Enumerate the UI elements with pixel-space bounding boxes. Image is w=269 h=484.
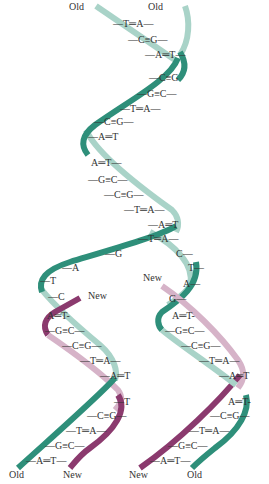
base-pair: —G≡C— (168, 441, 208, 451)
base-pair: —C≡G— (104, 190, 144, 200)
base-pair: —C≡G— (87, 411, 127, 421)
base-pair: —T═A— (189, 426, 229, 436)
label-bottom-new-2: New (129, 470, 148, 480)
unpaired-base: A— (183, 279, 200, 289)
base-pair: A═T— (91, 158, 121, 168)
label-bottom-old-2: Old (187, 470, 202, 480)
base-pair: —C≡G— (94, 117, 134, 127)
unpaired-base: —T (40, 276, 56, 286)
base-pair: —A═T (88, 132, 118, 142)
base-pair: —A═T (100, 371, 130, 381)
base-pair: —T═A— (199, 356, 239, 366)
base-pair: A═T- (47, 311, 70, 321)
base-pair: —T═A— (124, 205, 164, 215)
base-pair: —A═T— (145, 50, 185, 60)
base-pair: —T═A— (138, 234, 178, 244)
dna-replication-diagram: Old Old New New Old New New Old —T═A——C≡… (0, 0, 269, 484)
base-pair: —C≡G— (128, 35, 168, 45)
base-pair: A═T- (228, 397, 251, 407)
base-pair: —A═T— (150, 456, 190, 466)
base-pair: —C≡G— (181, 341, 221, 351)
base-pair: —C≡G— (62, 341, 102, 351)
base-pair: —G≡C— (137, 89, 177, 99)
base-pair: —C≡G— (210, 411, 250, 421)
base-pair: —T═A— (80, 356, 120, 366)
label-left-fork-new: New (88, 291, 107, 301)
label-right-fork-new: New (143, 273, 162, 283)
base-pair: —A═T— (26, 456, 66, 466)
unpaired-base: —G (105, 249, 122, 259)
label-top-left-old: Old (69, 2, 84, 12)
base-pair: —A═T (148, 220, 178, 230)
old-strand-back-3 (180, 6, 188, 55)
base-pair: —T (114, 397, 130, 407)
unpaired-base: —C (48, 292, 65, 302)
base-pair: —G≡C— (45, 326, 85, 336)
unpaired-base: —A (62, 263, 79, 273)
label-top-right-old: Old (148, 2, 163, 12)
unpaired-base: G— (169, 294, 186, 304)
label-bottom-new-1: New (63, 470, 82, 480)
base-pair: —C≡G (149, 73, 179, 83)
unpaired-base: C— (176, 249, 193, 259)
base-pair: —G≡C— (45, 441, 85, 451)
unpaired-base: T— (188, 263, 204, 273)
base-pair: —A═T (219, 371, 249, 381)
base-pair: —T═A— (113, 19, 153, 29)
base-pair: —G≡C— (88, 175, 128, 185)
base-pair: A═T- (172, 311, 195, 321)
base-pair: —G≡C— (165, 326, 205, 336)
base-pair: —T═A— (66, 426, 106, 436)
base-pair: —T═A— (120, 104, 160, 114)
label-bottom-old-1: Old (9, 470, 24, 480)
